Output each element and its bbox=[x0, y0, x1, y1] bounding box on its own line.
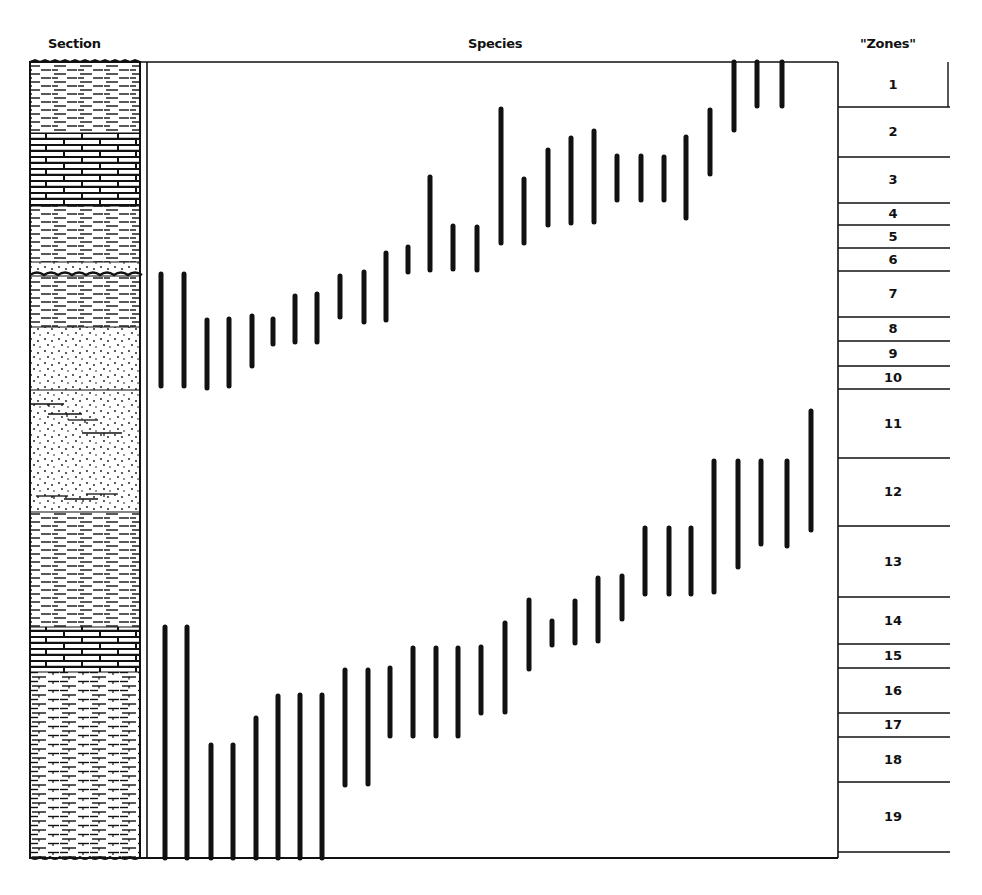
zone-label-2: 2 bbox=[838, 124, 948, 139]
section-layer-sandstone-with-shale-lenses bbox=[31, 390, 139, 512]
zone-label-13: 13 bbox=[838, 554, 948, 569]
zone-label-9: 9 bbox=[838, 346, 948, 361]
zone-label-6: 6 bbox=[838, 252, 948, 267]
section-column bbox=[31, 62, 139, 858]
zone-label-16: 16 bbox=[838, 683, 948, 698]
section-layer-shale bbox=[31, 206, 139, 262]
zone-label-4: 4 bbox=[838, 206, 948, 221]
zone-label-19: 19 bbox=[838, 809, 948, 824]
zone-label-17: 17 bbox=[838, 717, 948, 732]
zone-label-1: 1 bbox=[838, 77, 948, 92]
species-ranges-lower bbox=[165, 411, 811, 858]
section-layer-shale bbox=[31, 276, 139, 327]
zone-label-8: 8 bbox=[838, 321, 948, 336]
zone-label-3: 3 bbox=[838, 172, 948, 187]
zone-label-7: 7 bbox=[838, 286, 948, 301]
section-layer-sandstone bbox=[31, 327, 139, 390]
range-chart-diagram bbox=[0, 0, 982, 895]
zone-label-15: 15 bbox=[838, 648, 948, 663]
zone-label-18: 18 bbox=[838, 752, 948, 767]
species-ranges-upper bbox=[161, 62, 782, 388]
zone-label-14: 14 bbox=[838, 613, 948, 628]
zone-label-12: 12 bbox=[838, 484, 948, 499]
section-layer-limestone bbox=[31, 627, 139, 672]
section-layer-limestone bbox=[31, 133, 139, 206]
zone-label-11: 11 bbox=[838, 416, 948, 431]
section-layer-shale bbox=[31, 62, 139, 133]
section-layer-shale bbox=[31, 512, 139, 627]
zone-label-5: 5 bbox=[838, 229, 948, 244]
section-layer-calcareous-shale bbox=[31, 672, 139, 858]
species-panel-frame bbox=[140, 62, 838, 858]
zone-label-10: 10 bbox=[838, 370, 948, 385]
